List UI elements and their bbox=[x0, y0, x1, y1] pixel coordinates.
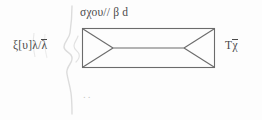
right-wedge-lower-diagonal bbox=[184, 48, 214, 67]
label-left-main: ξ[υ]λ bbox=[13, 39, 38, 51]
label-top-text: σχου// β d bbox=[80, 6, 128, 18]
label-right-overlined: χ bbox=[232, 39, 238, 52]
wavy-stroke-hook bbox=[74, 36, 79, 62]
label-left-overlined: λ bbox=[41, 39, 47, 52]
figure-canvas: σχου// β d ξ[υ]λ/λ Τχ .. bbox=[0, 0, 262, 120]
label-top-greek: σχου// β d bbox=[80, 7, 128, 19]
bottom-dots-mark: .. bbox=[83, 88, 93, 100]
diagram-svg bbox=[0, 0, 262, 120]
vertical-wavy-stroke bbox=[64, 6, 72, 114]
left-wedge-upper-diagonal bbox=[83, 29, 113, 48]
label-right-greek: Τχ bbox=[225, 39, 238, 52]
right-wedge-upper-diagonal bbox=[184, 29, 214, 48]
left-wedge-lower-diagonal bbox=[83, 48, 113, 67]
label-left-greek: ξ[υ]λ/λ bbox=[13, 39, 47, 52]
